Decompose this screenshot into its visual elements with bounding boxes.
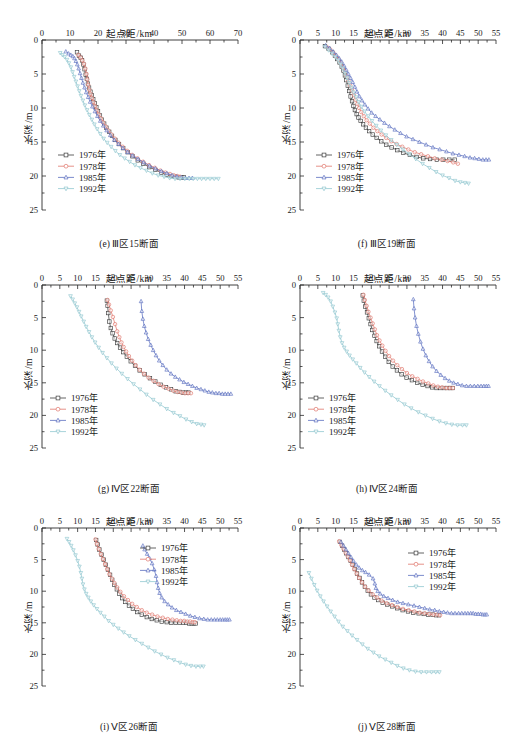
panel-g-plot[interactable]: 051015202530354045505505101520251976年197… [0,245,258,493]
legend-entry-1985年: 1985年 [140,565,188,576]
svg-text:1976年: 1976年 [329,392,356,403]
legend-entry-1978年: 1978年 [50,404,98,415]
svg-text:0: 0 [40,28,44,38]
svg-text:55: 55 [492,516,501,526]
svg-text:25: 25 [29,681,38,691]
svg-text:1978年: 1978年 [429,559,456,570]
series-1985年 [324,43,491,161]
legend-entry-1985年: 1985年 [308,415,356,426]
svg-text:15: 15 [29,618,38,628]
svg-text:5: 5 [316,28,320,38]
legend-entry-1985年: 1985年 [408,570,456,581]
legend-entry-1978年: 1978年 [408,559,456,570]
legend-entry-1992年: 1992年 [50,426,98,437]
panel-j-plot[interactable]: 051015202530354045505505101520251976年197… [258,488,516,731]
legend-entry-1978年: 1978年 [316,161,364,172]
svg-text:40: 40 [438,28,447,38]
svg-text:5: 5 [34,313,38,323]
svg-text:35: 35 [420,28,429,38]
svg-text:1985年: 1985年 [329,415,356,426]
svg-text:10: 10 [66,28,75,38]
svg-text:10: 10 [287,345,296,355]
panel-j-caption: (j) Ⅴ区28断面 [258,719,516,733]
svg-text:20: 20 [287,171,296,181]
svg-text:15: 15 [29,378,38,388]
svg-text:1985年: 1985年 [71,415,98,426]
svg-text:60: 60 [206,28,215,38]
svg-text:1985年: 1985年 [161,565,188,576]
svg-text:40: 40 [438,516,447,526]
svg-text:0: 0 [40,516,44,526]
svg-text:1976年: 1976年 [429,547,456,558]
svg-text:50: 50 [216,273,225,283]
svg-text:15: 15 [349,28,358,38]
svg-text:15: 15 [91,273,100,283]
svg-text:45: 45 [456,273,465,283]
panel-f-plot[interactable]: 051015202530354045505505101520251976年197… [258,0,516,258]
panel-i: 起点距/km 水深/m 0510152025303540455055051015… [0,506,258,749]
svg-text:25: 25 [287,205,296,215]
legend-entry-1992年: 1992年 [140,576,188,587]
panel-e-plot[interactable]: 01020304050607005101520251976年1978年1985年… [0,0,258,258]
svg-text:10: 10 [29,345,38,355]
svg-text:55: 55 [234,516,243,526]
svg-text:0: 0 [298,28,302,38]
svg-text:25: 25 [385,516,394,526]
svg-text:20: 20 [367,273,376,283]
svg-text:1992年: 1992年 [71,426,98,437]
legend-entry-1978年: 1978年 [58,161,106,172]
svg-text:10: 10 [73,273,82,283]
svg-text:25: 25 [385,28,394,38]
svg-text:35: 35 [162,273,171,283]
svg-text:20: 20 [367,516,376,526]
svg-text:1985年: 1985年 [429,570,456,581]
svg-text:45: 45 [456,28,465,38]
svg-text:1976年: 1976年 [71,392,98,403]
svg-text:70: 70 [234,28,243,38]
svg-text:10: 10 [331,516,340,526]
svg-text:5: 5 [34,555,38,565]
svg-text:20: 20 [367,28,376,38]
svg-text:0: 0 [292,280,296,290]
svg-text:1985年: 1985年 [79,172,106,183]
svg-text:1976年: 1976年 [337,149,364,160]
svg-text:20: 20 [109,516,118,526]
svg-text:20: 20 [29,649,38,659]
svg-text:25: 25 [29,205,38,215]
legend-entry-1976年: 1976年 [308,392,356,403]
panel-i-plot[interactable]: 051015202530354045505505101520251976年197… [0,488,258,731]
svg-text:10: 10 [29,586,38,596]
svg-text:1976年: 1976年 [161,542,188,553]
svg-text:0: 0 [298,516,302,526]
svg-text:50: 50 [474,516,483,526]
svg-text:5: 5 [292,69,296,79]
svg-text:1978年: 1978年 [329,404,356,415]
svg-text:30: 30 [122,28,131,38]
legend-entry-1992年: 1992年 [316,183,364,194]
legend-entry-1992年: 1992年 [408,581,456,592]
svg-text:25: 25 [287,443,296,453]
svg-text:10: 10 [29,103,38,113]
svg-text:40: 40 [180,516,189,526]
svg-text:55: 55 [492,273,501,283]
svg-text:25: 25 [29,443,38,453]
svg-text:35: 35 [162,516,171,526]
legend-entry-1985年: 1985年 [50,415,98,426]
legend-entry-1985年: 1985年 [316,172,364,183]
svg-text:15: 15 [91,516,100,526]
svg-text:1978年: 1978年 [79,161,106,172]
svg-text:15: 15 [287,137,296,147]
legend-entry-1992年: 1992年 [308,426,356,437]
svg-text:30: 30 [403,28,412,38]
svg-text:45: 45 [198,273,207,283]
svg-text:25: 25 [127,273,136,283]
series-1976年 [338,540,441,617]
svg-text:40: 40 [180,273,189,283]
svg-text:5: 5 [316,273,320,283]
panel-h-plot[interactable]: 051015202530354045505505101520251976年197… [258,245,516,493]
svg-text:20: 20 [287,410,296,420]
svg-text:10: 10 [287,586,296,596]
panel-i-caption: (i) Ⅴ区26断面 [0,719,258,733]
panel-g: 起点距/km 水深/m 0510152025303540455055051015… [0,258,258,506]
svg-text:50: 50 [474,28,483,38]
